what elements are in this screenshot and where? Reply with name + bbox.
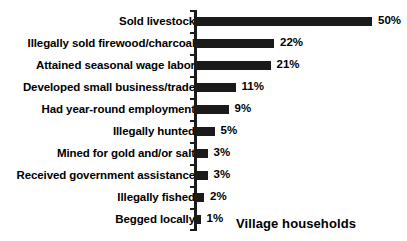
chart-row: Illegally fished 2% [0, 186, 407, 208]
value-label: 3% [214, 169, 231, 181]
x-axis-caption: Village households [236, 216, 356, 231]
bar [197, 127, 215, 136]
bar [197, 171, 208, 180]
category-label: Received government assistance [16, 164, 195, 186]
bar [197, 215, 201, 224]
axis-tick [190, 142, 195, 144]
chart-rows: Sold livestock 50% Illegally sold firewo… [0, 10, 407, 230]
value-label: 50% [378, 15, 401, 27]
value-label: 9% [235, 103, 252, 115]
bar-group: 11% [197, 76, 264, 98]
axis-tick [190, 98, 195, 100]
category-label: Illegally fished [117, 186, 195, 208]
value-label: 11% [242, 81, 264, 93]
bar [197, 17, 372, 26]
category-label: Attained seasonal wage labor [36, 54, 195, 76]
bar [197, 39, 274, 48]
bar-group: 22% [197, 32, 303, 54]
bar [197, 61, 271, 70]
category-label: Sold livestock [119, 10, 195, 32]
value-label: 21% [277, 59, 300, 71]
value-label: 5% [221, 125, 238, 137]
bar-group: 1% [197, 208, 223, 230]
chart-row: Illegally sold firewood/charcoal 22% [0, 32, 407, 54]
chart-row: Sold livestock 50% [0, 10, 407, 32]
category-label: Illegally hunted [113, 120, 195, 142]
chart-row: Mined for gold and/or salt 3% [0, 142, 407, 164]
bar-group: 2% [197, 186, 227, 208]
bar-group: 21% [197, 54, 300, 76]
category-label: Developed small business/trade [23, 76, 195, 98]
axis-tick [190, 76, 195, 78]
chart-row: Developed small business/trade 11% [0, 76, 407, 98]
bar-group: 3% [197, 164, 230, 186]
axis-tick [190, 32, 195, 34]
category-label: Illegally sold firewood/charcoal [28, 32, 195, 54]
axis-tick [190, 10, 195, 12]
bar-group: 5% [197, 120, 237, 142]
bar [197, 193, 204, 202]
category-label: Had year-round employment [42, 98, 195, 120]
chart-row: Attained seasonal wage labor 21% [0, 54, 407, 76]
axis-tick [190, 54, 195, 56]
category-label: Mined for gold and/or salt [57, 142, 195, 164]
axis-tick [190, 229, 195, 231]
bar [197, 83, 236, 92]
value-label: 2% [210, 191, 227, 203]
value-label: 1% [207, 213, 224, 225]
value-label: 22% [280, 37, 303, 49]
chart-row: Received government assistance 3% [0, 164, 407, 186]
value-label: 3% [214, 147, 231, 159]
bar [197, 105, 229, 114]
category-label: Begged locally [115, 208, 195, 230]
chart-row: Illegally hunted 5% [0, 120, 407, 142]
axis-tick [190, 208, 195, 210]
bar-group: 9% [197, 98, 251, 120]
axis-tick [190, 120, 195, 122]
bar-chart: Sold livestock 50% Illegally sold firewo… [0, 0, 407, 241]
bar [197, 149, 208, 158]
axis-tick [190, 164, 195, 166]
bar-group: 50% [197, 10, 401, 32]
bar-group: 3% [197, 142, 230, 164]
chart-row: Had year-round employment 9% [0, 98, 407, 120]
axis-tick [190, 186, 195, 188]
